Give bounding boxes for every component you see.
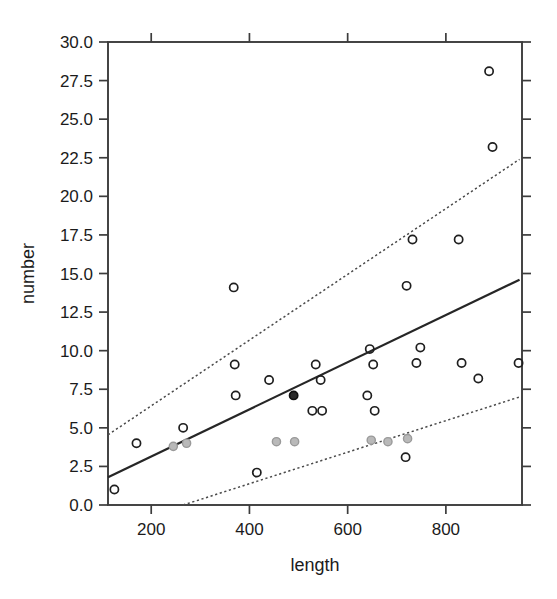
data-point [232,391,240,399]
data-point [291,438,299,446]
data-point [416,343,424,351]
y-axis-title: number [18,243,38,304]
data-point [367,436,375,444]
y-tick-label: 25.0 [60,110,93,129]
y-tick-label: 12.5 [60,303,93,322]
lower-confidence-band [183,397,519,505]
data-point [110,485,118,493]
y-tick-label: 2.5 [69,457,93,476]
data-point [179,424,187,432]
data-point [363,391,371,399]
data-point [369,360,377,368]
y-tick-label: 10.0 [60,342,93,361]
data-point [455,235,463,243]
plot-frame [108,42,522,505]
data-point [230,283,238,291]
y-tick-label: 17.5 [60,226,93,245]
data-point [485,67,493,75]
x-tick-label: 400 [235,520,263,539]
data-point [308,407,316,415]
y-tick-label: 30.0 [60,33,93,52]
x-tick-label: 800 [432,520,460,539]
data-point [403,435,411,443]
y-tick-label: 20.0 [60,187,93,206]
data-point [402,282,410,290]
data-point [253,468,261,476]
data-point [231,360,239,368]
data-point [272,438,280,446]
x-axis-title: length [290,555,339,575]
data-point [457,359,465,367]
data-point [132,439,140,447]
y-tick-label: 7.5 [69,380,93,399]
data-point [169,442,177,450]
x-tick-label: 600 [333,520,361,539]
data-point [402,453,410,461]
scatter-plot-figure: 0.02.55.07.510.012.515.017.520.022.525.0… [0,0,557,599]
y-tick-label: 0.0 [69,496,93,515]
data-point [182,439,190,447]
data-point [371,407,379,415]
data-point [488,143,496,151]
x-tick-label: 200 [137,520,165,539]
data-point [312,360,320,368]
y-tick-label: 15.0 [60,265,93,284]
y-tick-label: 22.5 [60,149,93,168]
data-point [408,235,416,243]
data-point [317,376,325,384]
upper-confidence-band [108,159,520,434]
data-point [290,391,298,399]
plot-canvas: 0.02.55.07.510.012.515.017.520.022.525.0… [0,0,557,599]
data-point [318,407,326,415]
data-point [474,374,482,382]
data-point [384,438,392,446]
data-point [265,376,273,384]
data-point [412,359,420,367]
y-tick-label: 27.5 [60,72,93,91]
y-tick-label: 5.0 [69,419,93,438]
